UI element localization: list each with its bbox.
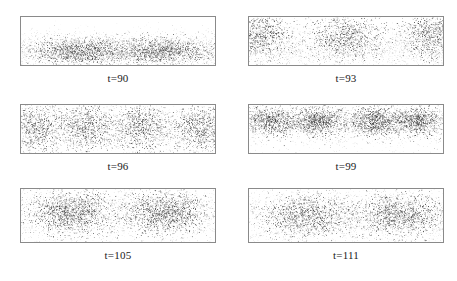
particle-scatter-canvas [21, 189, 215, 242]
panel-time-label: t=99 [248, 160, 444, 172]
particle-scatter-canvas [21, 17, 215, 65]
panel-plot-area [20, 104, 216, 154]
panel-time-label: t=105 [20, 249, 216, 261]
panel-plot-area [248, 188, 444, 243]
panel-plot-area [248, 104, 444, 154]
particle-scatter-canvas [249, 17, 443, 65]
panel-t-99: t=99 [248, 104, 444, 174]
panel-time-label: t=90 [20, 72, 216, 84]
particle-scatter-canvas [249, 105, 443, 153]
particle-scatter-canvas [249, 189, 443, 242]
panel-plot-area [20, 188, 216, 243]
panel-time-label: t=93 [248, 72, 444, 84]
panel-time-label: t=96 [20, 160, 216, 172]
panel-time-label: t=111 [248, 249, 444, 261]
panel-t-93: t=93 [248, 16, 444, 86]
panel-plot-area [20, 16, 216, 66]
particle-evolution-figure: t=90t=93t=96t=99t=105t=111 [0, 0, 457, 281]
particle-scatter-canvas [21, 105, 215, 153]
panel-plot-area [248, 16, 444, 66]
panel-t-105: t=105 [20, 188, 216, 263]
panel-t-90: t=90 [20, 16, 216, 86]
panel-t-96: t=96 [20, 104, 216, 174]
panel-t-111: t=111 [248, 188, 444, 263]
